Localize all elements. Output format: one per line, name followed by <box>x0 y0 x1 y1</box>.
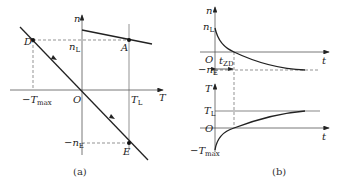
a-neg-tmax-label: −Tmax <box>22 94 52 107</box>
b-n-axis-label: n <box>206 5 212 16</box>
a-origin-label: O <box>73 94 81 105</box>
a-t-axis-label: T <box>159 92 167 103</box>
figure-a-caption: (a) <box>73 166 87 177</box>
figure-b-caption: (b) <box>272 166 286 177</box>
b-tl-label: TL <box>204 105 216 118</box>
diagram-canvas: n T O D A E nL TL −Tmax −nE (a) n nL O <box>0 0 341 188</box>
b-tzd-label: tZD <box>219 55 234 68</box>
figure-b: n nL O t tZD −nE T TL O t −Tmax (b) <box>190 5 329 177</box>
b-nl-label: nL <box>203 21 214 34</box>
a-motor-line <box>82 30 152 44</box>
point-d-label: D <box>23 36 32 47</box>
a-nl-label: nL <box>69 41 80 54</box>
a-n-axis-label: n <box>74 13 80 24</box>
point-e-label: E <box>122 146 131 157</box>
point-a-label: A <box>120 42 128 53</box>
b-bottom-origin-label: O <box>205 123 213 134</box>
a-tl-label: TL <box>131 94 143 107</box>
point-e <box>127 141 131 145</box>
a-direction-arrow-2 <box>109 114 115 119</box>
b-torque-curve <box>215 111 305 150</box>
b-top-t-label: t <box>322 55 327 66</box>
b-bottom-t-label: t <box>322 131 327 142</box>
figure-a: n T O D A E nL TL −Tmax −nE (a) <box>10 13 167 177</box>
b-t-axis-label: T <box>205 83 213 94</box>
a-neg-ne-label: −nE <box>64 137 84 150</box>
